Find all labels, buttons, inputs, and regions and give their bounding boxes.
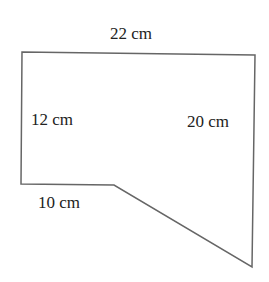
right-side-label: 20 cm	[187, 113, 229, 130]
top-side-label: 22 cm	[110, 25, 152, 42]
bottom-side-label: 10 cm	[38, 194, 80, 211]
left-side-label: 12 cm	[31, 111, 73, 128]
diagram-canvas: 22 cm 12 cm 20 cm 10 cm	[0, 0, 269, 282]
composite-polygon	[21, 52, 255, 267]
